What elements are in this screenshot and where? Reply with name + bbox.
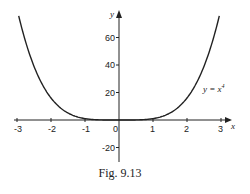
figure-caption: Fig. 9.13 (0, 166, 240, 181)
x-tick-label: -2 (48, 124, 56, 134)
x-tick-label: 1 (150, 124, 155, 134)
y-tick-label: 40 (105, 60, 115, 70)
x-tick-label: -1 (82, 124, 90, 134)
y-axis-label: y (109, 9, 114, 19)
y-tick-label: 60 (105, 33, 115, 43)
x-tick-label: 2 (184, 124, 189, 134)
y-axis-arrow-icon (116, 10, 122, 18)
y-tick-label: 20 (105, 88, 115, 98)
x-axis-label: x (230, 121, 235, 131)
x-tick-label: 3 (218, 124, 223, 134)
x-tick-label: -3 (14, 124, 22, 134)
y-tick-label: -20 (102, 143, 115, 153)
x-tick-label: 0 (113, 124, 118, 134)
chart: x -3-2-10123 y -20204060 y = x4 (0, 0, 250, 194)
y-axis: y -20204060 (102, 9, 122, 162)
curve-label: y = x4 (202, 83, 225, 94)
